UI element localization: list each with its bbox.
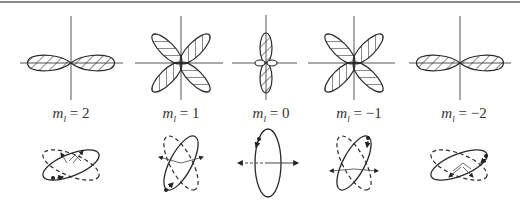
- label-m1: ml = 1: [163, 105, 200, 124]
- label-sub: l: [452, 114, 455, 124]
- lobe-plot-m0: [232, 15, 297, 100]
- orbit-m0: [238, 129, 298, 197]
- orbit-m-1: [330, 131, 378, 194]
- lobe-plot-m-1: [308, 16, 395, 100]
- label-var: m: [441, 105, 452, 121]
- label-m-2: ml = −2: [441, 105, 486, 124]
- label-eq: = 1: [180, 105, 200, 121]
- label-eq: = −2: [458, 105, 486, 121]
- lobe-plot-m2: [20, 16, 123, 100]
- label-eq: = −1: [353, 105, 381, 121]
- label-var: m: [336, 105, 347, 121]
- orbit-m2: [39, 144, 103, 187]
- label-sub: l: [263, 114, 266, 124]
- label-m-1: ml = −1: [336, 105, 381, 124]
- lobe-plot-m-2: [409, 16, 511, 100]
- label-m2: ml = 2: [53, 105, 90, 124]
- label-m0: ml = 0: [253, 105, 290, 124]
- label-sub: l: [63, 114, 66, 124]
- label-sub: l: [347, 114, 350, 124]
- orbit-m-2: [427, 144, 491, 187]
- label-eq: = 2: [70, 105, 90, 121]
- label-var: m: [53, 105, 64, 121]
- label-eq: = 0: [270, 105, 290, 121]
- lobe-plot-m1: [135, 16, 223, 100]
- label-var: m: [163, 105, 174, 121]
- label-var: m: [253, 105, 264, 121]
- orbit-m1: [157, 131, 205, 194]
- label-sub: l: [173, 114, 176, 124]
